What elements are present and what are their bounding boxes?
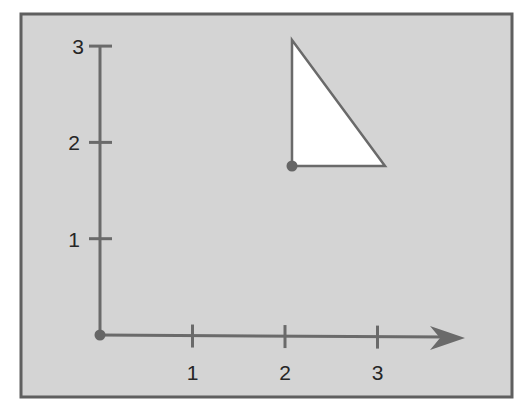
y-tick-label: 3 [72, 35, 84, 58]
y-tick-label: 1 [68, 228, 80, 251]
x-tick-label: 1 [187, 361, 199, 384]
x-tick-label: 3 [372, 361, 384, 384]
triangle-vertex-dot [287, 161, 298, 172]
x-tick-label: 2 [279, 361, 291, 384]
y-tick-label: 2 [68, 131, 80, 154]
coordinate-diagram: 123 123 [0, 0, 532, 419]
origin-dot [95, 330, 106, 341]
diagram-frame [21, 14, 512, 397]
x-axis [100, 335, 448, 337]
